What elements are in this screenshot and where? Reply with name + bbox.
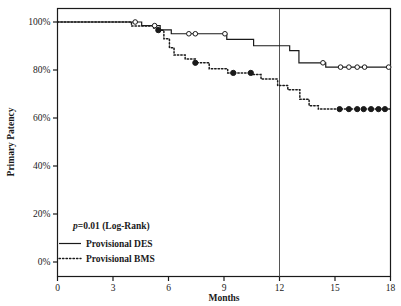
- censor-mark-des: [133, 20, 138, 25]
- kaplan-meier-plot: 0%20%40%60%80%100% 0369121518 Primary Pa…: [0, 0, 401, 306]
- censor-mark-bms: [361, 107, 366, 112]
- censor-mark-des: [355, 65, 360, 70]
- p-value-annotation: p=0.01 (Log-Rank): [72, 221, 150, 232]
- legend-item-bms: Provisional BMS: [59, 254, 155, 264]
- x-tick-label: 12: [275, 283, 285, 293]
- y-tick-label: 80%: [33, 65, 51, 75]
- p-value-rest: =0.01 (Log-Rank): [78, 221, 150, 232]
- y-tick-label: 100%: [28, 17, 50, 27]
- legend-label-bms: Provisional BMS: [86, 254, 155, 264]
- y-tick-label: 20%: [33, 209, 51, 219]
- censor-mark-des: [347, 65, 352, 70]
- legend-block: p=0.01 (Log-Rank) Provisional DES Provis…: [59, 221, 155, 264]
- legend-label-des: Provisional DES: [86, 239, 153, 249]
- censor-mark-bms: [346, 107, 351, 112]
- y-tick-label: 40%: [33, 161, 51, 171]
- x-tick-label: 0: [55, 283, 60, 293]
- censor-mark-bms: [193, 60, 198, 65]
- censor-mark-des: [187, 31, 192, 36]
- x-tick-label: 15: [330, 283, 340, 293]
- censor-mark-des: [362, 65, 367, 70]
- x-tick-label: 3: [111, 283, 116, 293]
- x-axis-label: Months: [208, 293, 239, 303]
- censor-mark-bms: [382, 107, 387, 112]
- censor-mark-bms: [376, 107, 381, 112]
- legend-item-des: Provisional DES: [59, 239, 153, 249]
- censor-mark-des: [338, 65, 343, 70]
- censor-mark-des: [321, 61, 326, 66]
- censor-mark-bms: [231, 70, 236, 75]
- x-tick-label: 6: [166, 283, 171, 293]
- x-axis-ticks: 0369121518: [55, 277, 395, 294]
- series-line-des: [58, 22, 391, 67]
- censor-mark-des: [193, 31, 198, 36]
- censor-mark-bms: [337, 107, 342, 112]
- x-tick-label: 9: [222, 283, 227, 293]
- y-tick-label: 60%: [33, 113, 51, 123]
- chart-figure: 0%20%40%60%80%100% 0369121518 Primary Pa…: [0, 0, 401, 306]
- y-axis-ticks: 0%20%40%60%80%100%: [28, 17, 57, 267]
- censor-mark-des: [386, 65, 391, 70]
- censor-mark-bms: [248, 70, 253, 75]
- x-tick-label: 18: [386, 283, 396, 293]
- censor-mark-bms: [368, 107, 373, 112]
- censor-mark-des: [152, 23, 157, 28]
- plot-frame: [58, 9, 391, 277]
- y-axis-label: Primary Patency: [6, 107, 16, 176]
- censor-mark-bms: [355, 107, 360, 112]
- censor-mark-bms: [156, 28, 161, 33]
- y-tick-label: 0%: [38, 257, 51, 267]
- censor-mark-des: [223, 31, 228, 36]
